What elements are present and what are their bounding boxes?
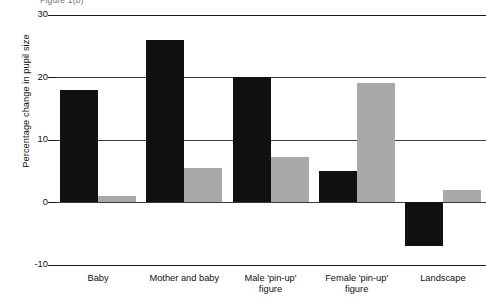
- bar-1-group-4: [319, 171, 357, 202]
- y-axis-label: Percentage change in pupil size: [21, 1, 31, 201]
- y-tick-mark-20: [48, 77, 56, 78]
- bar-1-group-2: [146, 40, 184, 203]
- bar-2-group-3: [271, 157, 309, 202]
- y-tick-mark-10: [48, 140, 56, 141]
- bar-2-group-2: [184, 168, 222, 202]
- bar-1-group-3: [233, 77, 271, 202]
- gridline-20: [55, 77, 486, 78]
- x-axis-label-4: Female 'pin-up' figure: [314, 273, 400, 296]
- y-tick-label-30: 30: [14, 8, 48, 19]
- bar-1-group-5: [405, 202, 443, 246]
- x-axis-label-3: Male 'pin-up' figure: [227, 273, 313, 296]
- bar-chart: Figure 1(b) Percentage change in pupil s…: [0, 0, 486, 306]
- y-tick-mark-30: [48, 15, 56, 16]
- x-axis-label-5: Landscape: [400, 273, 486, 285]
- y-tick-label--10: -10: [14, 258, 48, 269]
- figure-caption: Figure 1(b): [40, 0, 84, 5]
- bar-2-group-5: [443, 190, 481, 203]
- gridline-10: [55, 140, 486, 141]
- gridline--10: [55, 265, 486, 266]
- y-tick-mark--10: [48, 265, 56, 266]
- y-tick-label-20: 20: [14, 71, 48, 82]
- y-tick-label-10: 10: [14, 133, 48, 144]
- x-axis-label-2: Mother and baby: [141, 273, 227, 285]
- x-axis-label-1: Baby: [55, 273, 141, 285]
- bar-2-group-1: [98, 196, 136, 202]
- bar-2-group-4: [357, 83, 395, 202]
- y-tick-mark-0: [48, 202, 56, 203]
- bar-1-group-1: [60, 90, 98, 203]
- gridline-30: [55, 15, 486, 16]
- y-tick-label-0: 0: [14, 196, 48, 207]
